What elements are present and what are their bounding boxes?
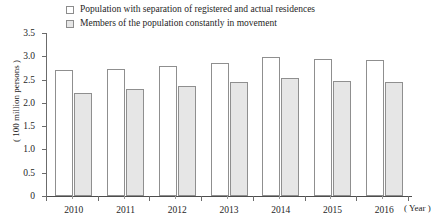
- y-tick-label: 0: [30, 191, 35, 201]
- x-tick: [305, 196, 306, 201]
- bar: [159, 66, 177, 196]
- y-tick-label: 0.5: [23, 168, 35, 178]
- x-tick-label: 2012: [168, 205, 187, 215]
- bar: [366, 60, 384, 196]
- bar: [74, 93, 92, 196]
- x-tick: [201, 196, 202, 201]
- y-tick: 3.5: [42, 33, 47, 34]
- y-tick-label: 3.0: [23, 51, 35, 61]
- y-tick: 1.0: [42, 149, 47, 150]
- chart-legend: Population with separation of registered…: [66, 3, 315, 31]
- bar: [178, 86, 196, 196]
- bar: [211, 63, 229, 196]
- x-minor-tick: [227, 196, 228, 199]
- legend-item-population-movement: Members of the population constantly in …: [66, 17, 315, 30]
- x-tick: [46, 196, 47, 201]
- y-axis-title: ( 100 million persons ): [11, 51, 21, 151]
- x-tick-label: 2014: [271, 205, 290, 215]
- bar: [126, 89, 144, 196]
- x-tick-label: 2016: [375, 205, 394, 215]
- bar: [281, 78, 299, 196]
- bar: [262, 57, 280, 196]
- x-tick: [98, 196, 99, 201]
- y-tick-label: 2.0: [23, 98, 35, 108]
- legend-label-population-movement: Members of the population constantly in …: [80, 18, 277, 29]
- x-tick-label: 2013: [220, 205, 239, 215]
- legend-item-population-separation: Population with separation of registered…: [66, 3, 315, 16]
- x-minor-tick: [72, 196, 73, 199]
- x-minor-tick: [279, 196, 280, 199]
- y-tick: 3.0: [42, 56, 47, 57]
- legend-swatch-white: [66, 6, 74, 14]
- x-tick-label: 2015: [323, 205, 342, 215]
- y-tick: 1.5: [42, 126, 47, 127]
- y-tick: 2.0: [42, 103, 47, 104]
- bar: [314, 59, 332, 196]
- bar-chart: Population with separation of registered…: [0, 0, 448, 223]
- x-minor-tick: [382, 196, 383, 199]
- plot-area: 00.51.01.52.02.53.03.5 20102011201220132…: [46, 33, 408, 196]
- y-axis-line: [46, 33, 47, 196]
- bar: [107, 69, 125, 196]
- x-tick: [149, 196, 150, 201]
- x-axis-title: ( Year ): [404, 203, 431, 213]
- y-tick-label: 1.0: [23, 144, 35, 154]
- x-tick: [408, 196, 409, 201]
- y-tick: 0.5: [42, 173, 47, 174]
- legend-label-population-separation: Population with separation of registered…: [80, 4, 315, 15]
- x-minor-tick: [330, 196, 331, 199]
- y-tick-label: 1.5: [23, 121, 35, 131]
- bar: [385, 82, 403, 196]
- bar: [55, 70, 73, 196]
- x-tick-label: 2011: [116, 205, 135, 215]
- y-tick-label: 3.5: [23, 28, 35, 38]
- x-minor-tick: [175, 196, 176, 199]
- x-tick-label: 2010: [64, 205, 83, 215]
- x-tick: [253, 196, 254, 201]
- legend-swatch-gray: [66, 20, 74, 28]
- x-minor-tick: [124, 196, 125, 199]
- y-tick-label: 2.5: [23, 75, 35, 85]
- bar: [230, 82, 248, 196]
- y-tick: 2.5: [42, 80, 47, 81]
- bar: [333, 81, 351, 196]
- x-tick: [356, 196, 357, 201]
